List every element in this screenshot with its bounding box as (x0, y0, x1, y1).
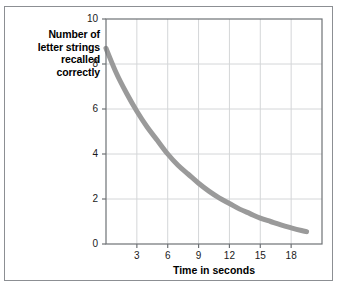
plot-area (0, 0, 339, 289)
y-tick-label: 4 (78, 148, 98, 159)
x-tick-label: 18 (281, 250, 301, 261)
y-tick-label: 2 (78, 193, 98, 204)
plot-background (106, 19, 322, 244)
x-tick-label: 6 (158, 250, 178, 261)
y-tick-label: 8 (78, 58, 98, 69)
y-tick-label: 6 (78, 103, 98, 114)
chart-container: Number of letter strings recalled correc… (0, 0, 339, 289)
x-tick-label: 12 (219, 250, 239, 261)
y-tick-label: 10 (78, 13, 98, 24)
x-tick-label: 3 (127, 250, 147, 261)
y-tick-label: 0 (78, 238, 98, 249)
x-tick-label: 15 (250, 250, 270, 261)
x-axis-label: Time in seconds (106, 264, 322, 276)
x-tick-label: 9 (189, 250, 209, 261)
